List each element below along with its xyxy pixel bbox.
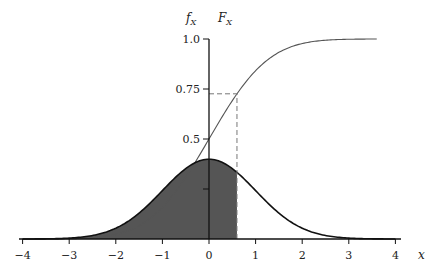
x-tick-label: −4: [14, 249, 30, 262]
x-axis-label: x: [418, 248, 425, 262]
cdf-axis-label: FX: [217, 11, 232, 27]
x-tick-label: 1: [252, 249, 259, 262]
x-tick-label: 4: [392, 249, 399, 262]
y-tick-label: 0.75: [176, 83, 201, 96]
y-tick-label: 1.0: [183, 33, 201, 46]
x-tick-label: −1: [154, 249, 170, 262]
x-tick-label: 2: [299, 249, 306, 262]
x-tick-label: 0: [206, 249, 213, 262]
pdf-axis-label: fX: [185, 11, 196, 27]
y-tick-label: 0.5: [183, 133, 201, 146]
normal-distribution-chart: −4−3−2−101234 0.50.751.0 x fX FX: [0, 0, 439, 272]
shaded-area: [23, 159, 237, 239]
x-ticks: −4−3−2−101234: [14, 239, 398, 262]
x-tick-label: −2: [108, 249, 124, 262]
x-tick-label: −3: [61, 249, 77, 262]
x-tick-label: 3: [345, 249, 352, 262]
